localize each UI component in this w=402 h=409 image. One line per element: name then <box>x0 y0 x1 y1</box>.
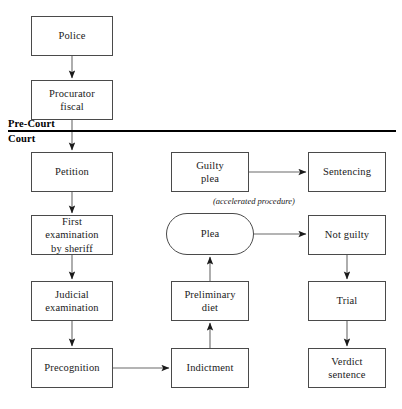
node-trial[interactable]: Trial <box>308 281 386 321</box>
node-petition[interactable]: Petition <box>31 152 113 192</box>
node-preliminary-diet[interactable]: Preliminary diet <box>171 281 249 321</box>
node-not-guilty[interactable]: Not guilty <box>308 215 386 255</box>
node-procurator-fiscal[interactable]: Procurator fiscal <box>31 80 113 120</box>
node-guilty-plea[interactable]: Guilty plea <box>171 152 249 192</box>
node-first-examination-label: First examination by sheriff <box>35 215 109 255</box>
node-verdict-sentence-label: Verdict sentence <box>328 355 365 382</box>
node-judicial-examination[interactable]: Judicial examination <box>31 281 113 321</box>
node-petition-label: Petition <box>55 165 89 178</box>
node-police[interactable]: Police <box>31 16 113 56</box>
node-first-examination[interactable]: First examination by sheriff <box>31 215 113 255</box>
node-precognition[interactable]: Precognition <box>31 348 113 388</box>
node-guilty-plea-label: Guilty plea <box>196 159 224 186</box>
node-plea[interactable]: Plea <box>166 213 254 255</box>
node-procurator-fiscal-label: Procurator fiscal <box>49 87 95 114</box>
node-precognition-label: Precognition <box>44 361 99 374</box>
node-indictment-label: Indictment <box>187 361 234 374</box>
pre-court-court-divider <box>8 130 396 132</box>
node-not-guilty-label: Not guilty <box>325 228 369 241</box>
node-plea-label: Plea <box>201 227 220 240</box>
node-indictment[interactable]: Indictment <box>171 348 249 388</box>
node-police-label: Police <box>58 29 85 42</box>
node-verdict-sentence[interactable]: Verdict sentence <box>308 348 386 388</box>
node-preliminary-diet-label: Preliminary diet <box>184 288 235 315</box>
node-judicial-examination-label: Judicial examination <box>45 288 99 315</box>
band-label-court: Court <box>8 133 35 144</box>
node-sentencing[interactable]: Sentencing <box>308 152 386 192</box>
annotation-accelerated-procedure: (accelerated procedure) <box>213 196 295 206</box>
node-trial-label: Trial <box>337 294 358 307</box>
flowchart-canvas: Pre-Court Court Police Procurator fiscal… <box>0 0 402 409</box>
node-sentencing-label: Sentencing <box>323 165 371 178</box>
